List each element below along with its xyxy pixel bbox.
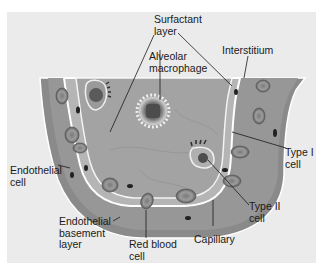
- label-endothelial-cell: Endothelial cell: [10, 165, 62, 188]
- label-endothelial-basement-layer: Endothelial basement layer: [59, 216, 111, 251]
- label-type-i-cell: Type I cell: [285, 147, 314, 170]
- alveolus-illustration: [0, 0, 323, 267]
- label-type-ii-cell: Type II cell: [249, 201, 281, 224]
- label-capillary: Capillary: [194, 234, 235, 246]
- label-red-blood-cell: Red blood cell: [129, 239, 177, 262]
- label-alveolar-macrophage: Alveolar macrophage: [149, 51, 207, 74]
- label-interstitium: Interstitium: [222, 45, 273, 57]
- label-surfactant-layer: Surfactant layer: [154, 14, 202, 37]
